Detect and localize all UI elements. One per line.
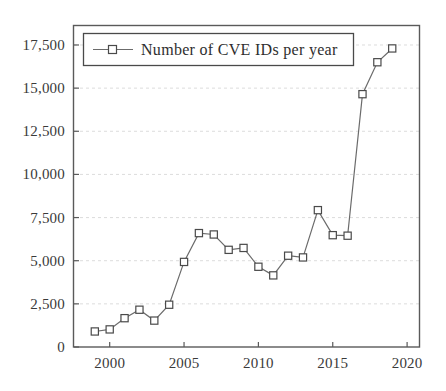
y-tick-label: 12,500 <box>23 123 65 139</box>
legend-label-cve-ids: Number of CVE IDs per year <box>141 41 338 59</box>
data-point-marker <box>285 252 292 259</box>
data-point-marker <box>210 231 217 238</box>
x-tick-label: 2005 <box>169 355 200 371</box>
data-point-marker <box>91 328 98 335</box>
y-tick-label: 0 <box>57 339 65 355</box>
data-point-marker <box>255 263 262 270</box>
data-point-marker <box>195 230 202 237</box>
y-tick-label: 7,500 <box>30 210 65 226</box>
data-point-marker <box>314 207 321 214</box>
data-point-marker <box>344 232 351 239</box>
legend-sample-marker <box>109 46 117 54</box>
data-point-marker <box>389 45 396 52</box>
y-tick-label: 5,000 <box>30 253 65 269</box>
y-tick-label: 10,000 <box>23 166 65 182</box>
data-point-marker <box>359 91 366 98</box>
chart-legend: Number of CVE IDs per year <box>84 34 354 66</box>
data-point-marker <box>329 232 336 239</box>
x-tick-label: 2015 <box>317 355 348 371</box>
data-point-marker <box>106 326 113 333</box>
y-tick-label: 17,500 <box>23 37 65 53</box>
chart-canvas: 02,5005,0007,50010,00012,50015,00017,500… <box>0 0 446 391</box>
data-point-marker <box>166 301 173 308</box>
data-point-marker <box>180 258 187 265</box>
x-tick-label: 2000 <box>94 355 125 371</box>
data-point-marker <box>121 315 128 322</box>
data-point-marker <box>136 306 143 313</box>
data-point-marker <box>374 59 381 66</box>
y-tick-label: 15,000 <box>23 80 65 96</box>
data-point-marker <box>270 272 277 279</box>
y-tick-label: 2,500 <box>30 296 65 312</box>
data-point-marker <box>225 246 232 253</box>
x-tick-label: 2020 <box>392 355 423 371</box>
data-point-marker <box>299 254 306 261</box>
cve-line-chart-figure: 02,5005,0007,50010,00012,50015,00017,500… <box>0 0 446 391</box>
x-tick-label: 2010 <box>243 355 274 371</box>
data-point-marker <box>240 244 247 251</box>
data-point-marker <box>151 317 158 324</box>
